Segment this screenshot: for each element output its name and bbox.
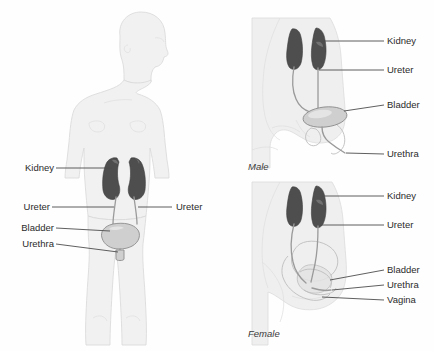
female-label-bladder: Bladder: [387, 264, 420, 275]
label-ureter-right: Ureter: [176, 201, 202, 212]
label-urethra-left: Urethra: [22, 238, 54, 249]
male-label-urethra: Urethra: [387, 148, 419, 159]
label-ureter-left: Ureter: [24, 201, 50, 212]
panel-male: Kidney Ureter Bladder Urethra Male: [248, 18, 420, 172]
female-label-kidney: Kidney: [387, 190, 416, 201]
panel-female: Kidney Ureter Bladder Urethra Vagina Fem…: [248, 182, 420, 345]
male-caption: Male: [248, 161, 269, 172]
diagram-canvas: Kidney Ureter Bladder Urethra Ureter: [0, 0, 434, 351]
male-label-ureter: Ureter: [387, 64, 413, 75]
body-head: [120, 12, 168, 83]
label-kidney-left: Kidney: [25, 162, 54, 173]
panel-full-body: Kidney Ureter Bladder Urethra Ureter: [21, 12, 202, 345]
female-label-ureter: Ureter: [387, 219, 413, 230]
male-leader-urethra: [346, 153, 384, 154]
label-bladder-left: Bladder: [21, 222, 54, 233]
female-label-urethra: Urethra: [387, 279, 419, 290]
male-label-kidney: Kidney: [387, 35, 416, 46]
male-labels: Kidney Ureter Bladder Urethra: [387, 35, 420, 159]
female-label-vagina: Vagina: [387, 294, 417, 305]
male-leader-bladder: [344, 105, 384, 111]
female-caption: Female: [248, 328, 280, 339]
male-label-bladder: Bladder: [387, 99, 420, 110]
female-labels: Kidney Ureter Bladder Urethra Vagina: [387, 190, 420, 305]
body-torso: [65, 80, 169, 220]
